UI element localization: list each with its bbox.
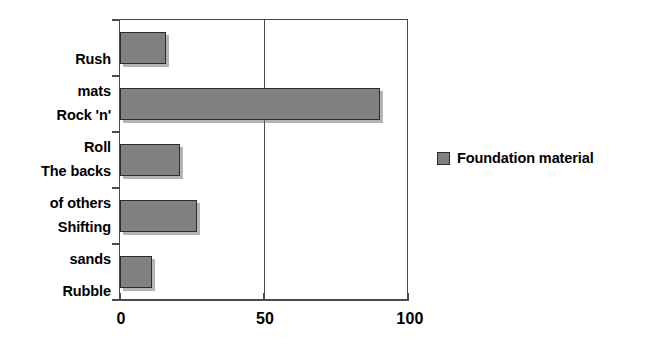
y-axis-tick-3 bbox=[112, 187, 119, 189]
bar-rubble[interactable] bbox=[120, 256, 152, 288]
bar-row-shifting-sands bbox=[120, 200, 407, 232]
y-axis-tick-1 bbox=[112, 75, 119, 77]
x-axis-label-100: 100 bbox=[396, 310, 423, 328]
x-axis-tick-50 bbox=[263, 293, 265, 300]
x-axis-label-50: 50 bbox=[256, 310, 274, 328]
bar-rush-mats[interactable] bbox=[120, 32, 166, 64]
bar-rock-n-roll[interactable] bbox=[120, 88, 380, 120]
bar-row-rubble bbox=[120, 256, 407, 288]
category-label-rush-mats: Rush mats bbox=[0, 35, 111, 99]
legend-swatch-foundation-material bbox=[437, 152, 450, 165]
bar-row-rush-mats bbox=[120, 32, 407, 64]
x-axis-tick-0 bbox=[119, 293, 121, 300]
bar-row-rock-n-roll bbox=[120, 88, 407, 120]
legend: Foundation material bbox=[437, 150, 594, 166]
category-label-shifting-sands: Shifting sands bbox=[0, 203, 111, 267]
bar-row-the-backs-of-others bbox=[120, 144, 407, 176]
x-axis-tick-100 bbox=[407, 293, 409, 300]
x-axis-label-0: 0 bbox=[116, 310, 125, 328]
category-label-line1: Rubble bbox=[62, 283, 111, 299]
plot-inner bbox=[120, 20, 407, 299]
plot-area bbox=[119, 19, 408, 300]
bar-shifting-sands[interactable] bbox=[120, 200, 197, 232]
category-label-line1: Shifting bbox=[58, 219, 111, 235]
bar-chart: Rush mats Rock 'n' Roll The backs of oth… bbox=[0, 0, 662, 352]
legend-label-foundation-material: Foundation material bbox=[457, 150, 594, 166]
category-label-line1: Rock 'n' bbox=[57, 107, 111, 123]
category-label-rubble: Rubble bbox=[0, 267, 111, 299]
category-label-rock-n-roll: Rock 'n' Roll bbox=[0, 91, 111, 155]
category-label-line1: The backs bbox=[41, 163, 111, 179]
y-axis-tick-4 bbox=[112, 243, 119, 245]
category-label-line2: sands bbox=[70, 251, 111, 267]
category-label-line1: Rush bbox=[75, 51, 111, 67]
y-axis-tick-0 bbox=[112, 19, 119, 21]
y-axis-category-labels: Rush mats Rock 'n' Roll The backs of oth… bbox=[0, 19, 111, 300]
category-label-the-backs-of-others: The backs of others bbox=[0, 147, 111, 211]
y-axis-tick-2 bbox=[112, 131, 119, 133]
bar-the-backs-of-others[interactable] bbox=[120, 144, 180, 176]
y-axis-tick-5 bbox=[112, 299, 119, 301]
